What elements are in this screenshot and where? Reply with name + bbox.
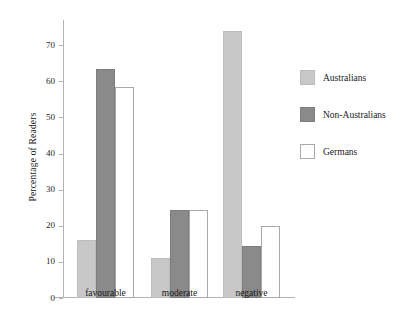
y-tick-label-20: 20 (27, 221, 55, 230)
legend-item-non-australians[interactable]: Non-Australians (300, 107, 399, 122)
bar-group-negative (223, 20, 280, 298)
bar-negative-australians[interactable] (223, 31, 242, 298)
bar-group-moderate (151, 20, 208, 298)
bar-group-favourable (77, 20, 134, 298)
legend-swatch-germans (300, 144, 315, 159)
chart-legend: AustraliansNon-AustraliansGermans (300, 70, 399, 181)
plot-area: 010203040506070 (63, 20, 295, 298)
y-tick-label-60: 60 (27, 77, 55, 86)
y-tick-label-50: 50 (27, 113, 55, 122)
y-tick-label-10: 10 (27, 257, 55, 266)
legend-item-australians[interactable]: Australians (300, 70, 399, 85)
bar-moderate-non-australians[interactable] (170, 210, 189, 298)
y-tick-label-70: 70 (27, 41, 55, 50)
legend-label-australians: Australians (323, 73, 366, 83)
bar-chart: Percentage of Readers 010203040506070 fa… (0, 0, 399, 335)
bar-favourable-non-australians[interactable] (96, 69, 115, 298)
legend-swatch-australians (300, 70, 315, 85)
x-axis-label-negative: negative (207, 288, 297, 298)
bar-favourable-germans[interactable] (115, 87, 134, 298)
legend-label-germans: Germans (323, 147, 357, 157)
bar-groups (63, 20, 295, 298)
bar-moderate-germans[interactable] (189, 210, 208, 298)
legend-swatch-non-australians (300, 107, 315, 122)
legend-item-germans[interactable]: Germans (300, 144, 399, 159)
y-tick-label-30: 30 (27, 185, 55, 194)
y-tick-label-0: 0 (27, 294, 55, 303)
y-tick-mark-0 (59, 298, 63, 299)
y-tick-label-40: 40 (27, 149, 55, 158)
legend-label-non-australians: Non-Australians (323, 110, 386, 120)
